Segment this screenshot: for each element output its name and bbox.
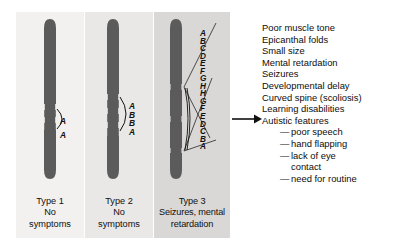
chromosome-type-1-shape bbox=[16, 12, 84, 190]
symptom-sub-item-label: need for routine bbox=[291, 173, 357, 184]
panel-description-line-2: symptoms bbox=[16, 219, 84, 230]
caption-type-1: Type 1 No symptoms bbox=[16, 196, 84, 230]
symptom-item: Curved spine (scoliosis) bbox=[262, 92, 409, 104]
panel-description-line-2: symptoms bbox=[85, 219, 153, 230]
symptom-sub-item-label: poor speech bbox=[291, 126, 343, 137]
panel-label: Type 3 bbox=[154, 196, 230, 207]
chromosome-type-1 bbox=[16, 12, 84, 190]
panel-description-line-1: No bbox=[85, 207, 153, 218]
symptom-item: Poor muscle tone bbox=[262, 22, 409, 34]
caption-type-3: Type 3 Seizures, mental retardation bbox=[154, 196, 230, 230]
panel-description-line-2: retardation bbox=[154, 219, 230, 230]
symptom-item: Autistic features bbox=[262, 115, 409, 127]
panel-type-1: A A Type 1 No symptoms bbox=[16, 12, 84, 238]
panel-description-line-1: Seizures, mental bbox=[154, 207, 230, 218]
symptom-list: Poor muscle tone Epicanthal folds Small … bbox=[262, 22, 409, 184]
chromosome-type-3 bbox=[154, 12, 230, 190]
segment-letter: A bbox=[60, 117, 66, 126]
symptom-sub-item: —poor speech bbox=[262, 126, 409, 138]
dash-bullet: — bbox=[280, 126, 291, 138]
leads-to-arrow-icon bbox=[232, 112, 262, 126]
chromosome-duplication-diagram: A A Type 1 No symptoms bbox=[0, 0, 409, 252]
panel-type-2: A B B A Type 2 No symptoms bbox=[85, 12, 153, 238]
symptom-item: Epicanthal folds bbox=[262, 34, 409, 46]
panel-label: Type 1 bbox=[16, 196, 84, 207]
symptom-item: Learning disabilities bbox=[262, 103, 409, 115]
symptom-sub-item: —hand flapping bbox=[262, 138, 409, 150]
segment-letter: A bbox=[200, 143, 206, 151]
symptom-item: Mental retardation bbox=[262, 57, 409, 69]
symptom-sub-item-continuation: contact bbox=[262, 161, 409, 173]
segment-letters-type-1: A A bbox=[60, 117, 66, 139]
segment-letters-type-2: A B B A bbox=[129, 102, 135, 136]
segment-bracket-type-2 bbox=[119, 96, 128, 132]
segment-letter: A bbox=[129, 128, 135, 137]
dash-bullet: — bbox=[280, 138, 291, 150]
symptom-item: Developmental delay bbox=[262, 80, 409, 92]
symptom-sub-item-label: hand flapping bbox=[291, 138, 347, 149]
dash-bullet: — bbox=[280, 173, 291, 185]
symptom-item: Small size bbox=[262, 45, 409, 57]
symptom-sub-item: —need for routine bbox=[262, 173, 409, 185]
symptom-item: Seizures bbox=[262, 68, 409, 80]
segment-letters-type-3: A B C D E F G H H G F E D C B A bbox=[200, 30, 206, 151]
segment-letter: A bbox=[60, 131, 66, 140]
panel-type-3: A B C D E F G H H G F E D C B A Type 3 S… bbox=[154, 12, 230, 238]
symptom-sub-item-label: lack of eye bbox=[291, 150, 336, 161]
dash-bullet: — bbox=[280, 150, 291, 162]
symptom-sub-item: —lack of eye bbox=[262, 150, 409, 162]
panel-label: Type 2 bbox=[85, 196, 153, 207]
caption-type-2: Type 2 No symptoms bbox=[85, 196, 153, 230]
chromosome-type-3-shape bbox=[154, 12, 230, 190]
panel-description-line-1: No bbox=[16, 207, 84, 218]
